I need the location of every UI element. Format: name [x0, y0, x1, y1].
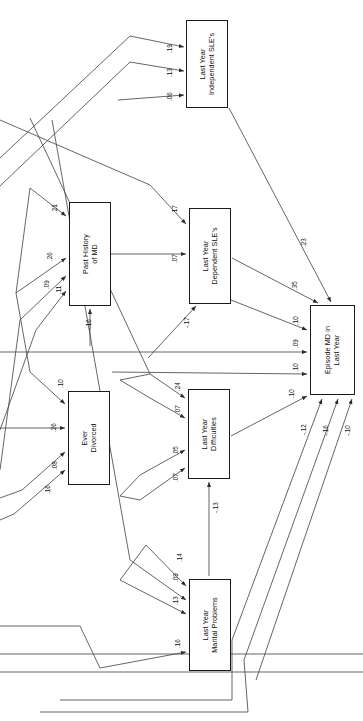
node-independent-sle[interactable]: Last YearIndependent SLE's	[186, 20, 228, 108]
path-coefficient: .07	[171, 254, 178, 263]
node-label: Last YearMarital Problems	[201, 597, 219, 653]
arrow-group-marital	[100, 545, 186, 668]
path-coefficient: .09	[292, 339, 299, 348]
node-last-year-difficulties[interactable]: Last YearDifficulties	[188, 389, 230, 479]
path-diagram-canvas: Last YearIndependent SLE's Past Historyo…	[0, 0, 363, 721]
node-dependent-sle[interactable]: Last YearDependent SLE's	[189, 208, 231, 304]
arrow-group-episode-md	[0, 108, 352, 680]
path-coefficient: .23	[300, 238, 307, 247]
path-coefficient: .11	[55, 286, 62, 294]
path-coefficient: -.16	[322, 425, 329, 436]
path-coefficient: .10	[292, 316, 299, 325]
path-coefficient: -.10	[344, 425, 351, 436]
node-label: Last YearDependent SLE's	[201, 227, 219, 284]
path-coefficient: .19	[166, 44, 173, 53]
path-coefficient: .06	[166, 92, 173, 101]
node-label: Last YearDifficulties	[200, 417, 218, 451]
path-coefficient: .10	[57, 379, 64, 388]
path-coefficient: -.16	[85, 319, 92, 330]
exogenous-lines	[0, 36, 363, 712]
path-coefficient: .13	[166, 68, 173, 77]
path-coefficient: .13	[172, 596, 179, 605]
arrow-group-dependent-sle	[111, 185, 196, 358]
path-coefficient: .21	[51, 204, 58, 213]
path-coefficient: .07	[172, 473, 179, 482]
path-coefficient: .10	[288, 389, 295, 398]
node-label: EverDivorced	[80, 423, 98, 452]
path-coefficient: .35	[291, 281, 298, 290]
path-arrow-layer	[0, 0, 363, 721]
path-coefficient: .07	[174, 405, 181, 414]
arrow-group-ever-divorced	[14, 372, 65, 514]
path-coefficient: .24	[174, 382, 181, 391]
node-label: Episode MD inLast Year	[324, 326, 342, 374]
path-coefficient: .08	[51, 461, 58, 470]
path-coefficient: .26	[50, 423, 57, 432]
node-last-year-marital-problems[interactable]: Last YearMarital Problems	[189, 579, 231, 671]
path-coefficient: .16	[44, 485, 51, 494]
path-coefficient: .10	[292, 363, 299, 372]
path-coefficient: .09	[43, 280, 50, 289]
path-coefficient: .05	[172, 446, 179, 455]
node-past-history-md[interactable]: Past Historyof MD	[69, 202, 111, 306]
path-coefficient: -.12	[300, 424, 307, 435]
path-coefficient: .26	[46, 252, 53, 261]
path-coefficient: -.13	[212, 502, 219, 513]
arrow-group-independent-sle	[118, 36, 184, 100]
path-coefficient: -.17	[183, 317, 190, 328]
node-label: Past Historyof MD	[81, 234, 99, 274]
node-episode-md-last-year[interactable]: Episode MD inLast Year	[310, 305, 355, 395]
node-ever-divorced[interactable]: EverDivorced	[68, 391, 110, 485]
path-coefficient: .09	[172, 573, 179, 582]
path-coefficient: .16	[174, 639, 181, 648]
path-coefficient: .14	[176, 553, 183, 562]
node-label: Last YearIndependent SLE's	[198, 33, 216, 95]
path-coefficient: .17	[171, 205, 178, 214]
